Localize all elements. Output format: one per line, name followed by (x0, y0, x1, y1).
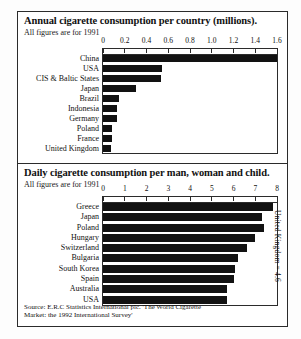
category-label-daily-6: South Korea (59, 265, 99, 273)
x-tick-label-daily-1: 1 (123, 184, 127, 193)
bar-row: Poland (103, 224, 277, 234)
category-label-daily-5: Bulgaria (71, 254, 99, 262)
bar-annual-0 (103, 55, 277, 62)
bar-annual-2 (103, 75, 161, 82)
bar-daily-0 (103, 203, 273, 211)
bar-daily-4 (103, 244, 247, 252)
x-tick-label-annual-6: 1.2 (229, 36, 238, 45)
source-line-2: Market: the 1992 International Survey' (24, 311, 254, 320)
bar-row: Japan (103, 213, 277, 223)
x-tick-label-daily-0: 0 (101, 184, 105, 193)
uk-reference-annotation: United Kingdom = 4.6 (273, 210, 282, 282)
x-axis-daily: 012345678 (102, 196, 278, 203)
x-tick-label-daily-7: 7 (253, 184, 257, 193)
bar-annual-3 (103, 85, 136, 92)
x-tick-annual-8 (277, 49, 278, 53)
category-label-annual-2: CIS & Baltic States (36, 75, 99, 83)
category-label-daily-1: Japan (81, 213, 99, 221)
bar-daily-7 (103, 275, 234, 283)
bar-daily-6 (103, 265, 235, 273)
x-tick-annual-1 (124, 49, 125, 53)
figure-frame: Annual cigarette consumption per country… (17, 11, 288, 327)
bars-container-annual: ChinaUSACIS & Baltic StatesJapanBrazilIn… (102, 55, 278, 154)
bar-row: China (103, 55, 277, 65)
x-tick-annual-6 (233, 49, 234, 53)
category-label-daily-2: Poland (77, 224, 99, 232)
x-tick-label-daily-4: 4 (188, 184, 192, 193)
plot-area-annual: 00.20.40.60.81.01.21.41.6 ChinaUSACIS & … (102, 48, 278, 154)
x-tick-daily-8 (277, 197, 278, 201)
category-label-daily-7: Spain (81, 275, 99, 283)
bar-annual-8 (103, 135, 112, 142)
category-label-annual-1: USA (83, 65, 99, 73)
bar-annual-6 (103, 115, 117, 122)
bar-row: Bulgaria (103, 254, 277, 264)
bar-row: France (103, 135, 277, 145)
x-tick-daily-6 (233, 197, 234, 201)
bar-daily-3 (103, 234, 255, 242)
bar-daily-5 (103, 254, 238, 262)
bar-daily-2 (103, 224, 264, 232)
x-tick-label-annual-3: 0.6 (164, 36, 173, 45)
x-tick-annual-0 (103, 49, 104, 53)
plot-area-daily: 012345678 GreeceJapanPolandHungarySwitze… (102, 196, 278, 306)
x-tick-label-annual-5: 1.0 (207, 36, 216, 45)
source-line-1: Source: E.R.C Statistics International p… (24, 303, 254, 312)
category-label-annual-6: Germany (69, 115, 99, 123)
x-tick-annual-5 (211, 49, 212, 53)
category-label-annual-0: China (80, 55, 99, 63)
bar-row: Brazil (103, 95, 277, 105)
category-label-daily-4: Switzerland (61, 244, 99, 252)
bar-annual-9 (103, 145, 111, 152)
x-tick-label-daily-3: 3 (166, 184, 170, 193)
bar-row: CIS & Baltic States (103, 75, 277, 85)
x-tick-daily-3 (168, 197, 169, 201)
x-tick-annual-7 (255, 49, 256, 53)
bar-row: Hungary (103, 234, 277, 244)
bar-row: Greece (103, 203, 277, 213)
category-label-daily-3: Hungary (71, 234, 99, 242)
bar-row: United Kingdom (103, 145, 277, 155)
chart-subtitle-annual: All figures are for 1991 (24, 28, 100, 37)
category-label-annual-3: Japan (81, 85, 99, 93)
x-tick-daily-1 (124, 197, 125, 201)
x-tick-label-annual-8: 1.6 (272, 36, 281, 45)
x-tick-label-annual-1: 0.2 (120, 36, 129, 45)
bar-daily-8 (103, 285, 227, 293)
bar-row: Australia (103, 285, 277, 295)
x-tick-daily-0 (103, 197, 104, 201)
x-tick-annual-4 (190, 49, 191, 53)
category-label-annual-4: Brazil (79, 95, 99, 103)
bar-row: Japan (103, 85, 277, 95)
chart-panel-annual: Annual cigarette consumption per country… (18, 12, 287, 164)
category-label-annual-5: Indonesia (68, 105, 99, 113)
x-tick-annual-2 (146, 49, 147, 53)
bar-row: Switzerland (103, 244, 277, 254)
bar-daily-1 (103, 213, 262, 221)
bar-annual-7 (103, 125, 112, 132)
x-tick-label-annual-4: 0.8 (185, 36, 194, 45)
source-note: Source: E.R.C Statistics International p… (24, 303, 254, 321)
category-label-daily-0: Greece (76, 203, 99, 211)
bars-container-daily: GreeceJapanPolandHungarySwitzerlandBulga… (102, 203, 278, 306)
chart-title-annual: Annual cigarette consumption per country… (24, 15, 257, 26)
category-label-annual-7: Poland (77, 125, 99, 133)
bar-row: Germany (103, 115, 277, 125)
bar-row: USA (103, 65, 277, 75)
x-tick-label-annual-7: 1.4 (251, 36, 260, 45)
chart-title-daily: Daily cigarette consumption per man, wom… (24, 167, 269, 178)
chart-panel-daily: Daily cigarette consumption per man, wom… (18, 164, 287, 325)
bar-row: Indonesia (103, 105, 277, 115)
x-tick-daily-4 (190, 197, 191, 201)
x-tick-label-annual-2: 0.4 (142, 36, 151, 45)
x-tick-label-daily-6: 6 (232, 184, 236, 193)
x-tick-daily-5 (211, 197, 212, 201)
bar-annual-5 (103, 105, 117, 112)
x-tick-daily-2 (146, 197, 147, 201)
bar-row: Spain (103, 275, 277, 285)
x-tick-label-annual-0: 0 (101, 36, 105, 45)
category-label-annual-8: France (77, 135, 99, 143)
x-axis-annual: 00.20.40.60.81.01.21.41.6 (102, 48, 278, 55)
category-label-annual-9: United Kingdom (45, 145, 99, 153)
x-tick-annual-3 (168, 49, 169, 53)
